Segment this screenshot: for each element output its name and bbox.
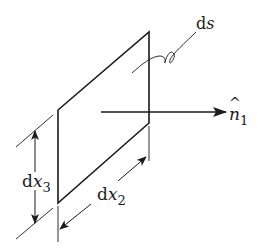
dx2-arrow-right	[118, 157, 146, 181]
label-dx2: dx2	[97, 184, 126, 208]
normal-hat: ^	[229, 95, 241, 111]
label-ds: ds	[196, 14, 214, 33]
surface-element	[58, 32, 149, 203]
diagram-canvas: ds n1 ^ dx3 dx2	[0, 0, 260, 252]
dx2-arrow-left	[60, 204, 91, 229]
label-dx3: dx3	[22, 171, 51, 195]
diagram-svg: ds n1 ^ dx3 dx2	[0, 0, 260, 252]
